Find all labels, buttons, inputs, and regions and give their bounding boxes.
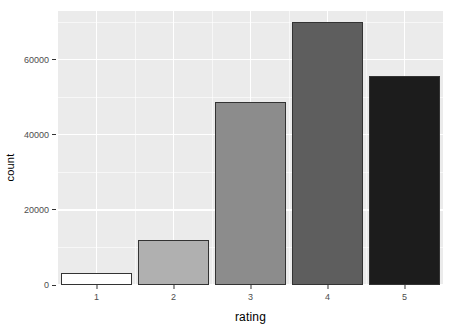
gridline-vertical-minor: [366, 11, 367, 285]
x-tick: 4: [325, 285, 330, 302]
x-axis-ticks: 12345: [0, 285, 462, 315]
y-tick-mark: [52, 59, 56, 60]
x-tick-label: 3: [248, 292, 253, 302]
x-tick-mark: [173, 285, 174, 289]
bar-chart: count rating 0200004000060000 12345: [0, 0, 462, 335]
y-tick-mark: [52, 134, 56, 135]
x-tick-mark: [250, 285, 251, 289]
gridline-vertical-major: [96, 11, 97, 285]
y-tick: 20000: [24, 204, 58, 216]
x-tick: 5: [402, 285, 407, 302]
y-tick-label: 40000: [24, 129, 49, 141]
bar-3: [215, 102, 286, 285]
bar-4: [292, 22, 363, 285]
bar-1: [61, 273, 132, 285]
y-tick-label: 20000: [24, 204, 49, 216]
gridline-vertical-minor: [289, 11, 290, 285]
y-tick: 40000: [24, 129, 58, 141]
x-tick-label: 5: [402, 292, 407, 302]
gridline-vertical-minor: [212, 11, 213, 285]
x-tick-mark: [96, 285, 97, 289]
y-tick-mark: [52, 209, 56, 210]
x-tick: 2: [171, 285, 176, 302]
x-tick-mark: [327, 285, 328, 289]
x-tick-label: 2: [171, 292, 176, 302]
y-tick: 60000: [24, 54, 58, 66]
gridline-vertical-minor: [135, 11, 136, 285]
x-tick-label: 1: [94, 292, 99, 302]
y-tick-label: 60000: [24, 54, 49, 66]
bar-2: [138, 240, 209, 285]
x-tick-label: 4: [325, 292, 330, 302]
x-tick-mark: [404, 285, 405, 289]
plot-panel: [58, 11, 443, 285]
x-tick: 1: [94, 285, 99, 302]
bar-5: [369, 76, 440, 285]
x-tick: 3: [248, 285, 253, 302]
